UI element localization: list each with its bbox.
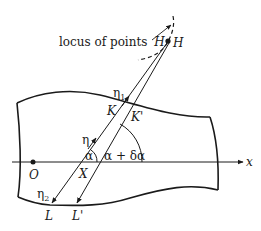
locus-label: locus of points H xyxy=(59,35,165,49)
origin-label: O xyxy=(29,168,39,182)
eta2-label: η2 xyxy=(37,187,49,203)
alpha-label: α xyxy=(85,149,93,163)
X-label: X xyxy=(78,167,88,181)
diagram-canvas: x O locus of points H H η1 K K' η α α + … xyxy=(0,0,261,231)
line-HL-prime xyxy=(77,43,169,203)
alpha-delta-label: α + δα xyxy=(104,149,145,163)
eta1-label: η1 xyxy=(113,86,125,102)
L-prime-label: L' xyxy=(71,209,83,223)
point-H xyxy=(165,38,170,43)
K-label: K xyxy=(106,104,117,118)
line-HL xyxy=(52,43,167,203)
origin-point xyxy=(31,160,36,165)
x-axis-label: x xyxy=(246,155,253,169)
L-label: L xyxy=(44,209,53,223)
eta-label: η xyxy=(82,133,89,147)
point-H-label: H xyxy=(172,36,184,50)
K-prime-label: K' xyxy=(130,110,143,124)
